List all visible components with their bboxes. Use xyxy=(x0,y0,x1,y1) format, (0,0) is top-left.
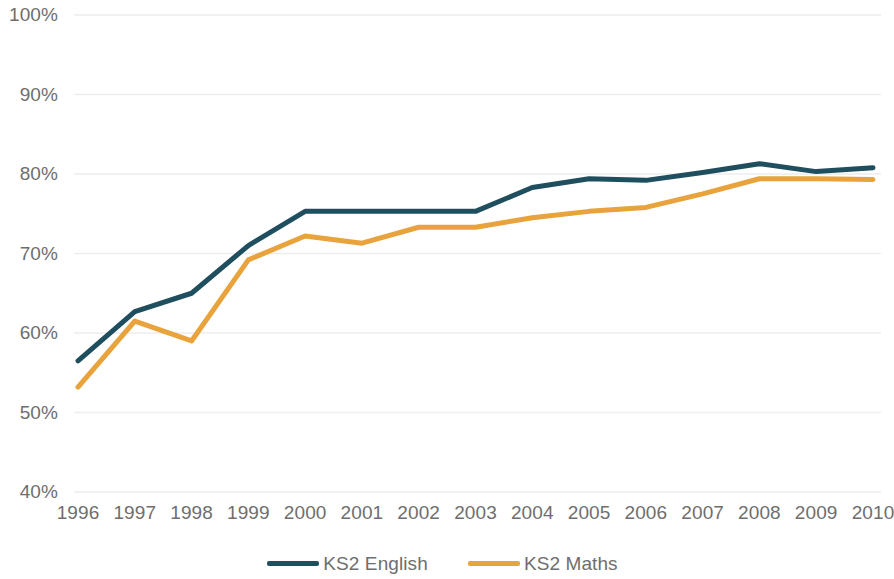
x-axis: 1996199719981999200020012002200320042005… xyxy=(78,502,873,532)
legend-line-swatch-icon xyxy=(267,561,319,566)
y-tick-label: 90% xyxy=(20,84,58,106)
y-tick-label: 40% xyxy=(20,481,58,503)
gridlines xyxy=(74,15,881,492)
y-tick-label: 80% xyxy=(20,163,58,185)
legend-label: KS2 Maths xyxy=(524,553,618,575)
x-tick-label: 2008 xyxy=(738,502,781,524)
y-tick-label: 60% xyxy=(20,322,58,344)
x-tick-label: 1999 xyxy=(227,502,270,524)
x-tick-label: 2007 xyxy=(681,502,724,524)
x-tick-label: 2010 xyxy=(852,502,894,524)
x-tick-label: 2000 xyxy=(284,502,327,524)
y-axis: 100%90%80%70%60%50%40% xyxy=(0,0,70,507)
x-tick-label: 2002 xyxy=(397,502,440,524)
chart-legend: KS2 EnglishKS2 Maths xyxy=(0,548,885,579)
legend-item[interactable]: KS2 English xyxy=(267,553,428,575)
x-tick-label: 2003 xyxy=(454,502,497,524)
x-tick-label: 1996 xyxy=(57,502,100,524)
x-tick-label: 2009 xyxy=(795,502,838,524)
series-lines xyxy=(78,164,873,387)
legend-line-swatch-icon xyxy=(468,561,520,566)
plot-area xyxy=(78,15,873,492)
legend-item[interactable]: KS2 Maths xyxy=(468,553,618,575)
x-tick-label: 1997 xyxy=(113,502,156,524)
y-tick-label: 100% xyxy=(9,4,58,26)
plot-svg xyxy=(78,15,873,492)
x-tick-label: 2004 xyxy=(511,502,554,524)
y-tick-label: 70% xyxy=(20,243,58,265)
y-tick-label: 50% xyxy=(20,402,58,424)
x-tick-label: 2001 xyxy=(341,502,384,524)
x-tick-label: 1998 xyxy=(170,502,213,524)
x-tick-label: 2005 xyxy=(568,502,611,524)
legend-label: KS2 English xyxy=(323,553,428,575)
x-tick-label: 2006 xyxy=(625,502,668,524)
